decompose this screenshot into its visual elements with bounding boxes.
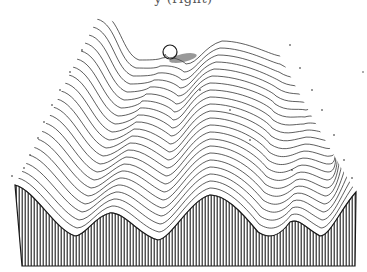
energy-landscape-illustration <box>0 0 367 272</box>
stipple-dots <box>11 44 363 179</box>
surface-contours <box>15 12 356 240</box>
front-cross-section <box>15 185 356 266</box>
